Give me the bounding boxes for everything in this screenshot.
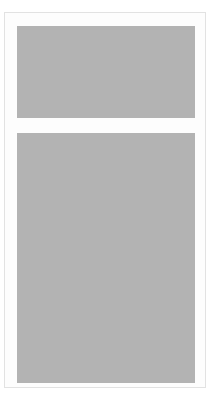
digits-panel bbox=[17, 26, 195, 118]
alphabet-panel bbox=[17, 133, 195, 383]
